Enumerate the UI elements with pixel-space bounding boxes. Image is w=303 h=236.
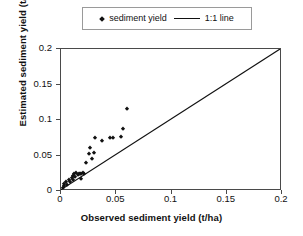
y-axis-tick [56, 84, 60, 85]
y-axis-title-wrapper: Estimated sediment yield (t/ha) [0, 0, 30, 236]
legend-label-sediment-yield: sediment yield [109, 14, 167, 23]
x-axis-tick-label: 0 [57, 194, 62, 204]
legend-entry-one-to-one-line: 1:1 line [174, 14, 234, 23]
data-point [88, 146, 93, 151]
y-axis-tick-label: 0.05 [34, 150, 53, 160]
data-point [100, 139, 105, 144]
legend-entry-sediment-yield: sediment yield [100, 14, 167, 23]
line-swatch-icon [174, 18, 200, 19]
y-axis-title: Estimated sediment yield (t/ha) [15, 0, 29, 126]
y-axis-tick-label: 0 [47, 185, 52, 195]
x-axis-title: Observed sediment yield (t/ha) [0, 212, 303, 223]
plot-area [60, 48, 281, 190]
scatter-chart-figure: sediment yield 1:1 line 00.050.10.150.2 … [0, 0, 303, 236]
data-point [91, 150, 96, 155]
chart-legend: sediment yield 1:1 line [82, 7, 252, 30]
y-axis-tick [56, 155, 60, 156]
data-point-layer [61, 49, 280, 189]
x-axis-tick-label: 0.15 [217, 194, 236, 204]
x-axis-tick-label: 0.05 [106, 194, 125, 204]
data-point [124, 107, 129, 112]
data-point [90, 157, 95, 162]
legend-label-one-to-one-line: 1:1 line [205, 14, 234, 23]
x-axis-tick-label: 0.2 [274, 194, 287, 204]
data-point [81, 171, 86, 176]
y-axis-tick [56, 48, 60, 49]
y-axis-tick-label: 0.1 [39, 114, 52, 124]
y-axis-tick [56, 190, 60, 191]
y-axis-tick-label: 0.2 [39, 43, 52, 53]
data-point [83, 161, 88, 166]
y-axis-tick [56, 119, 60, 120]
data-point [119, 135, 124, 140]
data-point [79, 176, 84, 181]
diamond-marker-icon [99, 16, 105, 22]
x-axis-tick-label: 0.1 [164, 194, 177, 204]
y-axis-tick-label: 0.15 [34, 79, 53, 89]
data-point [111, 136, 116, 141]
data-point [120, 127, 125, 132]
data-point [93, 136, 98, 141]
